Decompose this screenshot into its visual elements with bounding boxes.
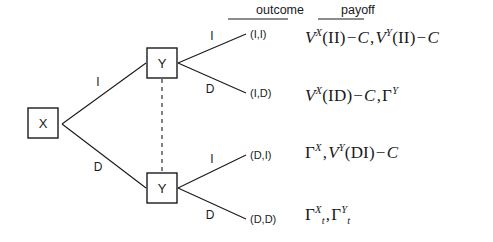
edge-label-y-bottom-i: I bbox=[210, 152, 213, 166]
payoff-ii-y-cost: C bbox=[427, 28, 439, 47]
payoff-di-y-cost: C bbox=[387, 143, 399, 162]
node-y-top-label: Y bbox=[158, 56, 167, 71]
outcome-label-dd: (D,D) bbox=[250, 213, 276, 225]
payoff-ii-x-cost: C bbox=[357, 28, 369, 47]
payoff-ii-x-arg: (II) bbox=[322, 28, 345, 47]
payoff-expression-dd: ΓXt,ΓYt bbox=[305, 204, 351, 226]
outcome-label-di: (D,I) bbox=[250, 149, 271, 161]
edge-root-to-y-top bbox=[62, 63, 146, 124]
payoff-dd-y-symbol: Γ bbox=[331, 205, 341, 224]
edge-label-y-top-i: I bbox=[210, 29, 213, 43]
payoff-id-x-symbol: V bbox=[305, 86, 316, 105]
game-tree-figure: X Y Y I D I D I D outcome payoff (I,I) (… bbox=[0, 0, 493, 242]
payoff-id-x-arg: (ID) bbox=[322, 86, 352, 105]
edge-label-root-d: D bbox=[94, 160, 103, 174]
payoff-dd-y-sub: t bbox=[347, 215, 350, 226]
minus-sign-icon: − bbox=[375, 143, 387, 162]
payoff-di-y-arg: (DI) bbox=[345, 143, 375, 162]
node-y-bottom-label: Y bbox=[158, 181, 167, 196]
minus-sign-icon: − bbox=[352, 86, 364, 105]
payoff-di-x-symbol: Γ bbox=[305, 143, 315, 162]
edge-label-y-top-d: D bbox=[206, 82, 215, 96]
payoff-dd-y-sup: Y bbox=[341, 204, 347, 215]
payoff-ii-y-symbol: V bbox=[375, 28, 386, 47]
outcome-label-ii: (I,I) bbox=[250, 28, 267, 40]
edge-root-to-y-bottom bbox=[62, 124, 146, 188]
outcome-column-header: outcome bbox=[256, 3, 304, 17]
payoff-id-x-cost: C bbox=[364, 86, 376, 105]
payoff-expression-id: VX(ID)−C,ΓY bbox=[305, 85, 398, 106]
payoff-expression-ii: VX(II)−C,VY(II)−C bbox=[305, 27, 439, 48]
payoff-id-y-sup: Y bbox=[392, 85, 398, 96]
payoff-di-y-symbol: V bbox=[328, 143, 339, 162]
payoff-expression-di: ΓX,VY(DI)−C bbox=[305, 142, 398, 163]
node-x-label: X bbox=[39, 116, 48, 131]
minus-sign-icon: − bbox=[346, 28, 358, 47]
minus-sign-icon: − bbox=[416, 28, 428, 47]
outcome-label-id: (I,D) bbox=[250, 87, 271, 99]
payoff-di-x-sup: X bbox=[315, 142, 322, 153]
payoff-column-header: payoff bbox=[341, 3, 375, 17]
payoff-id-y-symbol: Γ bbox=[382, 86, 392, 105]
payoff-ii-x-symbol: V bbox=[305, 28, 316, 47]
edge-label-y-bottom-d: D bbox=[206, 208, 215, 222]
payoff-ii-y-arg: (II) bbox=[392, 28, 415, 47]
edge-label-root-i: I bbox=[96, 75, 99, 89]
payoff-dd-x-symbol: Γ bbox=[305, 205, 315, 224]
payoff-dd-x-sup: X bbox=[315, 204, 322, 215]
